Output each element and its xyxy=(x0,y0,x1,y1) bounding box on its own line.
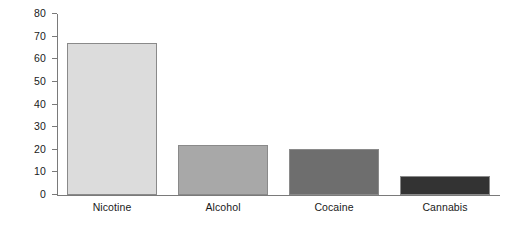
x-axis-label-nicotine: Nicotine xyxy=(67,200,157,214)
x-axis-label-alcohol: Alcohol xyxy=(178,200,268,214)
x-axis-label-cannabis: Cannabis xyxy=(400,200,490,214)
bar-chart: 01020304050607080 NicotineAlcoholCocaine… xyxy=(0,0,508,226)
bar-cannabis[interactable] xyxy=(400,176,490,195)
bar-nicotine[interactable] xyxy=(67,43,157,195)
bar-cocaine[interactable] xyxy=(289,149,379,195)
bar-alcohol[interactable] xyxy=(178,145,268,195)
bar-series: NicotineAlcoholCocaineCannabis xyxy=(0,0,508,226)
x-axis-label-cocaine: Cocaine xyxy=(289,200,379,214)
